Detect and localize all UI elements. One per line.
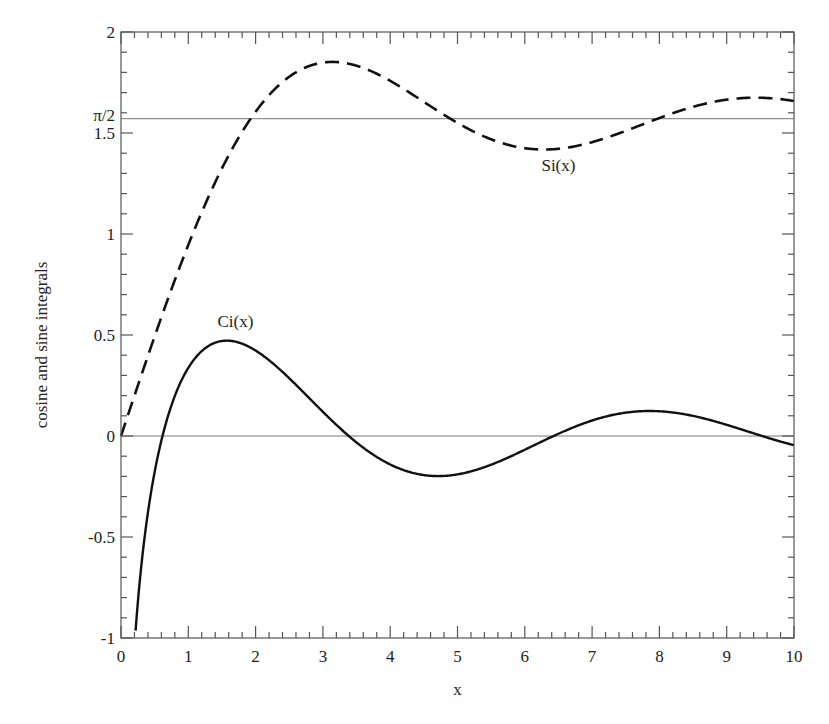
y-tick-label: 2: [107, 23, 116, 42]
y-tick-label: 1.5: [94, 124, 115, 143]
ci-curve-label: Ci(x): [217, 312, 253, 331]
y-tick-label: π/2: [93, 106, 115, 125]
x-tick-labels: 012345678910: [117, 647, 803, 666]
x-tick-label: 9: [722, 647, 731, 666]
x-tick-label: 0: [117, 647, 126, 666]
x-tick-label: 1: [184, 647, 193, 666]
chart: 012345678910 -1-0.500.511.5π/22 x cosine…: [0, 0, 829, 724]
y-tick-label: 1: [107, 225, 116, 244]
si-curve: [121, 62, 794, 436]
y-tick-label: -0.5: [88, 528, 115, 547]
x-tick-label: 10: [786, 647, 803, 666]
y-axis-label: cosine and sine integrals: [32, 262, 51, 429]
x-tick-label: 2: [251, 647, 260, 666]
x-tick-label: 5: [453, 647, 462, 666]
ci-curve: [136, 341, 794, 631]
x-axis-label: x: [453, 680, 462, 699]
axis-ticks: [121, 32, 794, 638]
y-tick-label: -1: [101, 629, 115, 648]
plot-frame: [121, 32, 794, 638]
x-tick-label: 8: [655, 647, 664, 666]
y-tick-label: 0: [107, 427, 116, 446]
y-tick-label: 0.5: [94, 326, 115, 345]
si-curve-label: Si(x): [541, 156, 575, 175]
y-tick-labels: -1-0.500.511.5π/22: [88, 23, 115, 648]
x-tick-label: 4: [386, 647, 395, 666]
x-tick-label: 3: [319, 647, 328, 666]
x-tick-label: 6: [521, 647, 530, 666]
curves: [121, 62, 794, 631]
x-tick-label: 7: [588, 647, 597, 666]
